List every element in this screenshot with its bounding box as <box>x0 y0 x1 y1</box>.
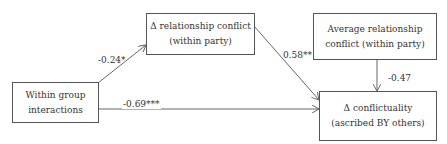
node-predictor: Within group interactions <box>12 82 99 123</box>
node-outcome: Δ conflictuality (ascribed BY others) <box>319 91 437 141</box>
node-mediator-line1: Δ relationship conflict <box>150 19 251 34</box>
node-mediator-line2: (within party) <box>169 34 232 49</box>
node-outcome-line2: (ascribed BY others) <box>331 116 424 131</box>
node-predictor-line1: Within group <box>26 88 86 103</box>
node-predictor-line2: interactions <box>28 103 83 118</box>
coef-moderator-to-outcome: -0.47 <box>388 73 411 83</box>
coef-mediator-to-outcome: 0.58** <box>283 50 312 60</box>
node-moderator-line2: conflict (within party) <box>325 37 424 52</box>
node-outcome-line1: Δ conflictuality <box>344 101 413 116</box>
arrow-mediator-to-outcome <box>254 26 319 100</box>
node-mediator: Δ relationship conflict (within party) <box>146 13 255 55</box>
coef-predictor-to-outcome: -0.69*** <box>122 99 161 109</box>
node-moderator: Average relationship conflict (within pa… <box>313 13 437 60</box>
node-moderator-line1: Average relationship <box>328 22 423 37</box>
coef-predictor-to-mediator: -0.24* <box>98 55 126 65</box>
